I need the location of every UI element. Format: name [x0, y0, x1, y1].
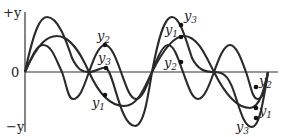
axis-label-minus-y: −y	[6, 119, 25, 134]
label-y2-c: y2	[258, 73, 272, 90]
marker-y3-b	[179, 23, 184, 28]
marker-y3-c	[254, 116, 259, 121]
label-y1-b: y1	[164, 22, 178, 39]
marker-y1-c	[254, 106, 259, 111]
label-y2-a: y2	[96, 28, 110, 45]
marker-y1-a	[103, 93, 108, 98]
axis-label-zero: 0	[11, 65, 19, 80]
label-y3-a: y3	[97, 50, 111, 67]
label-y2-b: y2	[163, 55, 177, 72]
wave-superposition-diagram: +y 0 −y y2 y3 y1 y3 y1 y2 y2 y1 y3	[0, 0, 290, 137]
label-y3-c: y3	[235, 119, 249, 136]
label-y1-c: y1	[258, 103, 272, 120]
label-y1-a: y1	[91, 95, 105, 112]
marker-y1-b	[179, 35, 184, 40]
marker-y2-c	[254, 85, 259, 90]
axis-label-plus-y: +y	[3, 5, 22, 20]
label-y3-b: y3	[183, 8, 197, 25]
marker-y2-b	[179, 60, 184, 65]
